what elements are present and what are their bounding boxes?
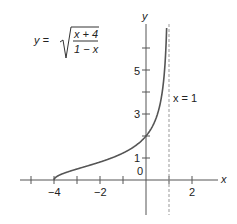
origin-label: 0 [137,165,143,177]
y-tick-label-1: 1 [134,152,140,164]
equation-numerator: x + 4 [73,28,98,40]
equation-lhs: y = [33,34,50,46]
equation-denominator: 1 − x [74,43,99,55]
chart: x y 0 1 3 5 −4 −2 2 x = 1 y = x + 4 1 − … [0,0,237,224]
y-tick-label-5: 5 [134,65,140,77]
x-tick-label-2: 2 [189,186,195,198]
x-tick-label-neg2: −2 [94,186,107,198]
y-axis-label: y [141,10,149,22]
x-axis-label: x [220,173,227,185]
asymptote-label: x = 1 [173,92,197,104]
function-curve [54,28,167,180]
y-tick-label-3: 3 [134,108,140,120]
x-tick-label-neg4: −4 [48,186,61,198]
